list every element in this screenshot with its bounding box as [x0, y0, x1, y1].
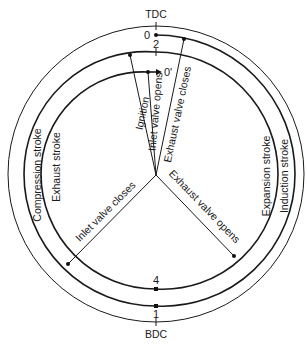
ignition-dot	[128, 53, 132, 57]
point-0-dot	[154, 33, 158, 37]
exhaust-closes-dot	[182, 37, 186, 41]
compression-stroke-label: Compression stroke	[31, 128, 43, 222]
inlet-closes-label: Inlet valve closes	[73, 179, 138, 244]
point-1-label: 1	[153, 308, 159, 320]
point-2-label: 2	[153, 38, 159, 50]
exhaust-opens-dot	[232, 254, 236, 258]
inlet-closes-line	[68, 175, 156, 264]
exhaust-opens-label: Exhaust valve opens	[167, 167, 243, 245]
valve-timing-diagram: TDC BDC 0 2 0' 4 1 Compression stroke Ex…	[0, 0, 307, 350]
tdc-label: TDC	[145, 8, 167, 20]
bdc-label: BDC	[145, 328, 168, 340]
expansion-stroke-label: Expansion stroke	[260, 136, 272, 217]
exhaust-closes-label: Exhaust valve closes	[161, 65, 193, 163]
induction-stroke-label: Induction stroke	[278, 139, 290, 213]
point-0prime-label: 0'	[164, 66, 172, 78]
point-4-dot	[154, 287, 158, 291]
inlet-opens-dot	[146, 70, 150, 74]
inlet-closes-dot	[66, 262, 70, 266]
exhaust-stroke-label: Exhaust stroke	[50, 132, 62, 202]
point-0-label: 0	[144, 29, 150, 41]
point-4-label: 4	[153, 274, 159, 286]
